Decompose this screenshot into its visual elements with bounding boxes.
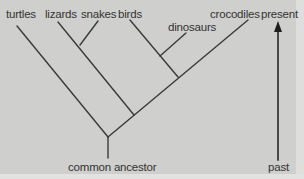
branch-lizards bbox=[58, 22, 134, 115]
label-dinosaurs: dinosaurs bbox=[168, 22, 216, 34]
label-present: present bbox=[261, 9, 298, 21]
label-turtles: turtles bbox=[6, 9, 36, 21]
label-snakes: snakes bbox=[81, 9, 116, 21]
time-arrow-head-icon bbox=[274, 21, 282, 32]
label-common-ancestor: common ancestor bbox=[68, 162, 156, 174]
cladogram-tree bbox=[0, 0, 304, 179]
label-birds: birds bbox=[118, 9, 142, 21]
branch-turtles bbox=[17, 26, 108, 137]
branch-dinosaurs bbox=[160, 33, 186, 56]
branch-crocodiles bbox=[108, 20, 248, 137]
label-crocodiles: crocodiles bbox=[210, 9, 260, 21]
branch-snakes bbox=[80, 21, 98, 45]
label-past: past bbox=[268, 162, 289, 174]
label-lizards: lizards bbox=[45, 9, 77, 21]
